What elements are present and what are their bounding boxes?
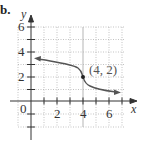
axes xyxy=(10,15,137,140)
y-tick-label: 4 xyxy=(18,44,25,59)
graph: 0 2 4 6 2 4 6 x y (4, 2) xyxy=(0,0,143,146)
point-marker xyxy=(81,75,85,79)
y-tick-label: 6 xyxy=(18,19,25,34)
x-tick-label: 2 xyxy=(54,106,61,121)
y-axis-label: y xyxy=(20,7,27,21)
left-arrowhead xyxy=(34,56,41,62)
y-tick-label: 2 xyxy=(18,69,25,84)
right-arrowhead xyxy=(114,90,121,96)
x-axis-label: x xyxy=(130,102,137,116)
x-tick-label: 4 xyxy=(80,106,87,121)
point-annotation: (4, 2) xyxy=(89,62,117,77)
x-tick-label: 0 xyxy=(20,101,27,116)
x-tick-label: 6 xyxy=(106,106,113,121)
